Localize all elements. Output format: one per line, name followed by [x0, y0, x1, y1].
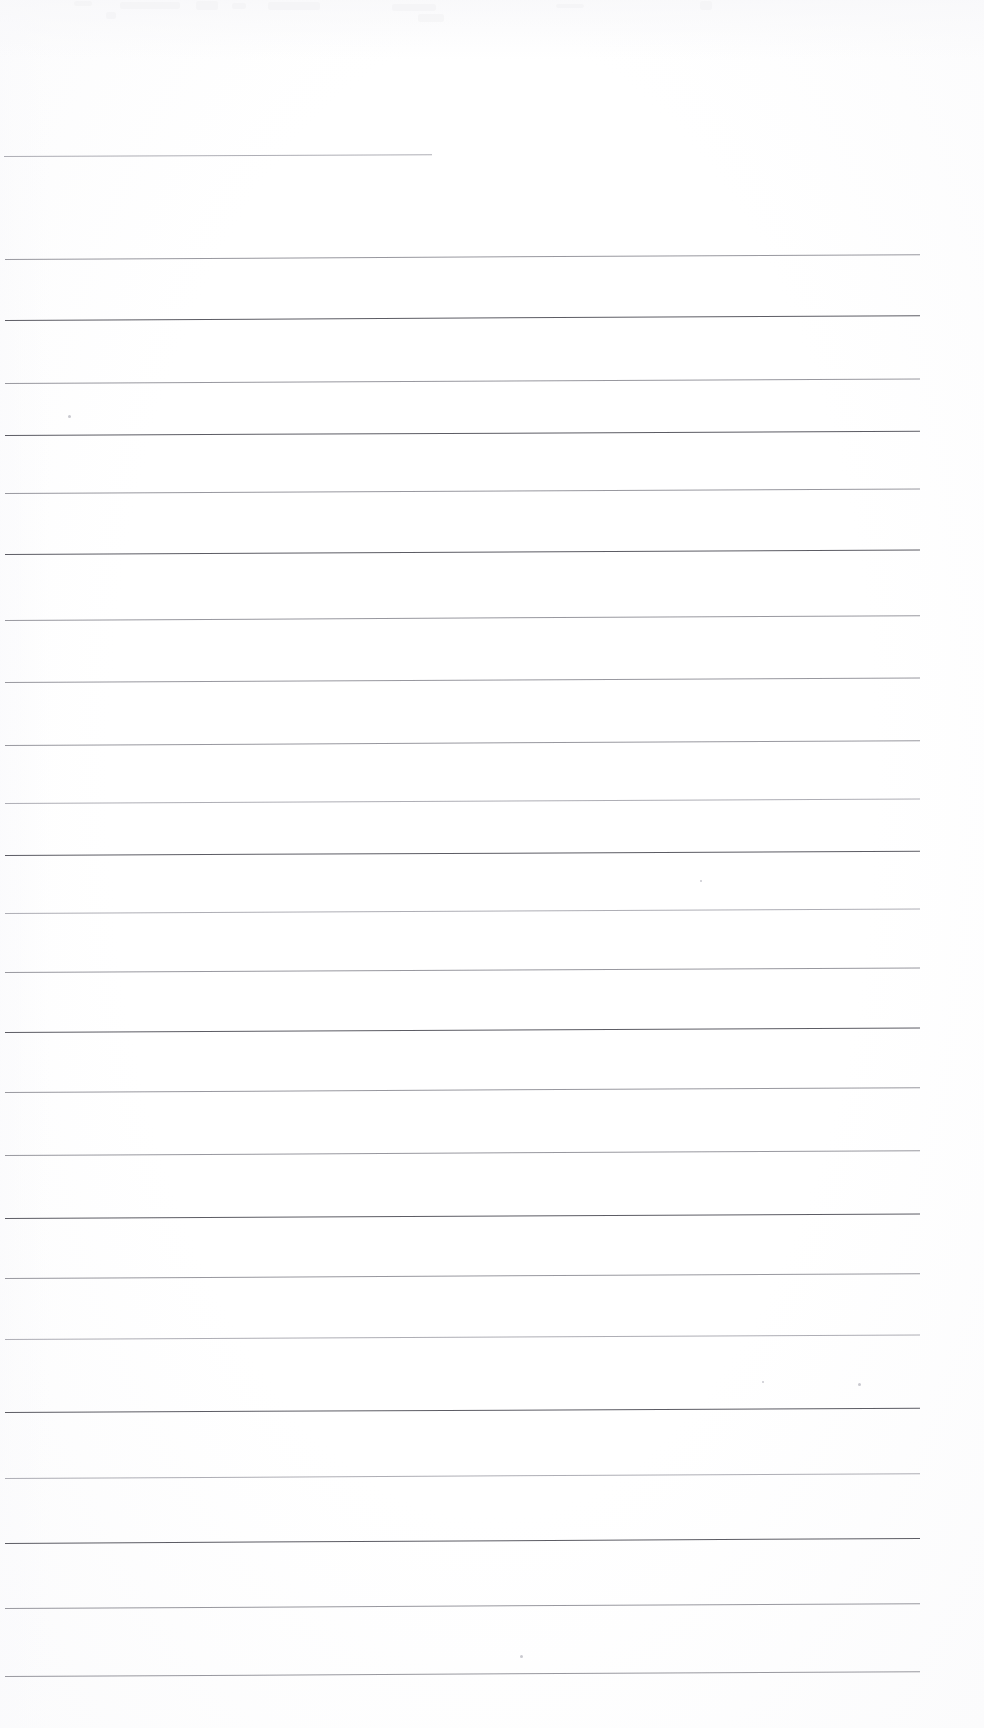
scan-smudge-group — [0, 0, 984, 34]
scan-smudge — [120, 2, 180, 9]
writing-area[interactable] — [0, 120, 984, 1710]
scan-smudge — [106, 12, 116, 19]
scanned-page — [0, 0, 984, 1728]
scan-smudge — [700, 1, 712, 10]
scan-smudge — [196, 1, 218, 10]
scan-smudge — [268, 2, 320, 10]
scan-smudge — [556, 4, 584, 8]
scan-smudge — [232, 3, 246, 9]
scan-smudge — [392, 4, 436, 11]
scan-smudge — [418, 14, 444, 22]
scan-smudge — [74, 1, 92, 6]
